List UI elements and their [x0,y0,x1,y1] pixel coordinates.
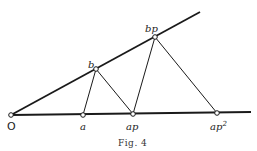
point-bp [153,35,158,40]
label-bp: bp [145,23,158,34]
label-a: a [80,121,86,132]
label-b: b [88,59,94,70]
label-ap2-superscript: 2 [221,120,227,128]
segment-bp-ap2 [155,37,217,113]
segment-a-b [83,69,96,115]
point-ap [131,112,136,117]
label-ap: ap [126,121,139,132]
segment-ap-bp [133,37,155,114]
label-o: O [7,120,16,133]
point-a [81,113,86,118]
figure-caption: Fig. 4 [118,138,147,148]
point-ap2 [215,111,220,116]
geometric-diagram: O a ap ap2 b bp Fig. 4 [0,0,257,151]
label-ap2: ap2 [210,120,227,132]
upper-ray [11,12,200,115]
segment-b-ap [96,69,133,114]
point-o [9,113,14,118]
